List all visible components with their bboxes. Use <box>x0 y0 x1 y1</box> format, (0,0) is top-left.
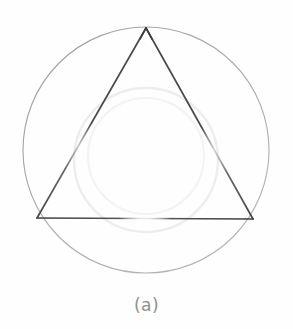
figure-drawing <box>0 0 293 329</box>
paper-background <box>0 0 293 329</box>
triangle-base-edge <box>37 218 253 219</box>
figure-page: (a) <box>0 0 293 329</box>
figure-caption: (a) <box>0 294 293 316</box>
